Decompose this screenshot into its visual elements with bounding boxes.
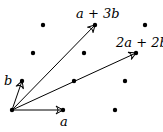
lattice-point <box>143 23 147 27</box>
lattice-point <box>31 51 35 55</box>
vector-label: a + 3b <box>76 6 120 21</box>
vector-a-plus-3b <box>12 25 95 110</box>
vector-labels: aba + 3b2a + 2b <box>4 6 163 129</box>
lattice-point <box>113 108 117 112</box>
vector-2a-plus-2b <box>12 53 136 110</box>
vector-label: a <box>60 114 68 129</box>
lattice-point <box>82 51 86 55</box>
vector-label: b <box>4 73 12 88</box>
lattice-point <box>123 79 127 83</box>
lattice-diagram: aba + 3b2a + 2b <box>0 0 163 132</box>
vector-label: 2a + 2b <box>115 35 163 50</box>
lattice-point <box>41 23 45 27</box>
